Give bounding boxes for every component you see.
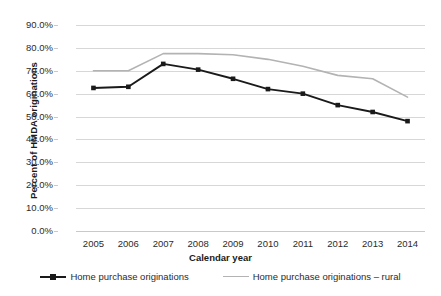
data-point-marker [405,119,410,124]
x-tick-label: 2014 [385,238,431,249]
data-point-marker [91,86,96,91]
data-point-marker [370,110,375,115]
data-point-marker [301,91,306,96]
legend-item[interactable]: Home purchase originations [40,271,188,282]
y-tick-mark [54,139,58,140]
y-tick-label: 10.0% [0,203,53,213]
y-tick-label: 70.0% [0,66,53,76]
series-lines [76,25,425,231]
y-tick-label: 50.0% [0,112,53,122]
y-tick-mark [54,208,58,209]
chart-figure: Percent of HMDA originations 90.0%80.0%7… [0,0,441,296]
data-point-marker [126,85,131,90]
gridline [76,231,425,232]
legend-item[interactable]: Home purchase originations – rural [223,271,401,282]
y-tick-label: 60.0% [0,89,53,99]
y-tick-label: 40.0% [0,134,53,144]
y-tick-label: 20.0% [0,180,53,190]
data-point-marker [335,103,340,108]
y-tick-mark [54,94,58,95]
y-tick-label: 30.0% [0,157,53,167]
y-tick-mark [54,71,58,72]
data-point-marker [196,67,201,72]
legend-swatch-icon [223,272,249,282]
chart-legend: Home purchase originationsHome purchase … [0,271,441,282]
series-line [93,54,407,97]
legend-label: Home purchase originations [70,271,188,282]
series-line [93,64,407,121]
data-point-marker [161,62,166,67]
data-point-marker [266,87,271,92]
y-tick-mark [54,231,58,232]
y-tick-label: 0.0% [0,226,53,236]
y-tick-label: 90.0% [0,20,53,30]
x-axis-title: Calendar year [0,252,441,263]
y-tick-mark [54,25,58,26]
y-axis-title: Percent of HMDA originations [28,36,39,226]
y-tick-mark [54,117,58,118]
legend-label: Home purchase originations – rural [253,271,401,282]
y-tick-mark [54,185,58,186]
y-tick-mark [54,48,58,49]
y-tick-label: 80.0% [0,43,53,53]
data-point-marker [231,76,236,81]
legend-swatch-icon [40,272,66,282]
y-tick-mark [54,162,58,163]
plot-area: 90.0%80.0%70.0%60.0%50.0%40.0%30.0%20.0%… [76,25,425,231]
